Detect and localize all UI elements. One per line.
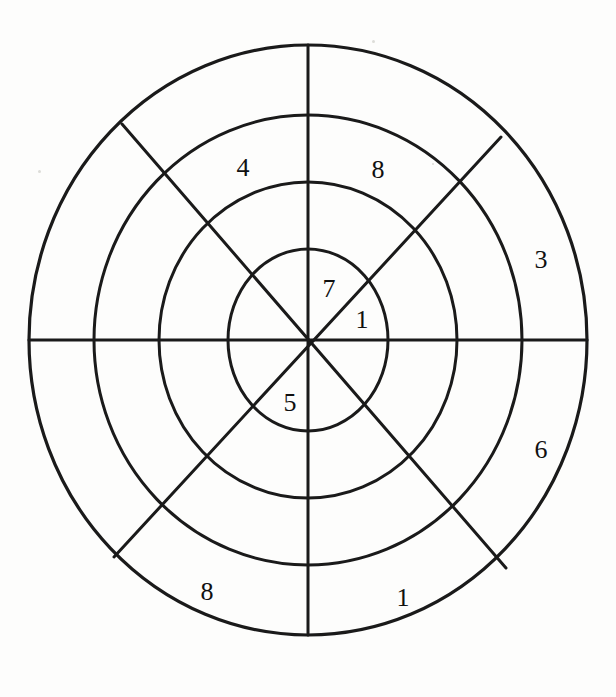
sector-value-ring1-east-northeast: 1 [356,307,369,333]
sector-value-ring3-north-northwest: 4 [237,155,250,181]
sector-value-ring1-north-northeast: 7 [323,276,336,302]
sector-value-ring3-north-northeast: 8 [372,157,385,183]
sector-value-ring4-south-southwest: 8 [201,579,214,605]
scan-speck-b [38,170,41,173]
polar-grid-svg [0,0,616,697]
scan-speck-c [432,163,434,165]
sector-value-ring4-east-northeast: 3 [535,247,548,273]
polar-sector-diagram: 7 1 5 4 8 3 6 8 1 [0,0,616,697]
sector-value-ring1-south-southwest: 5 [284,390,297,416]
sector-value-ring4-east-southeast: 6 [535,437,548,463]
scan-speck-a [372,40,375,43]
sector-value-ring4-south-southeast: 1 [397,585,410,611]
diameter-group [29,45,587,635]
diameter-diagonal-nw-se [122,124,506,568]
